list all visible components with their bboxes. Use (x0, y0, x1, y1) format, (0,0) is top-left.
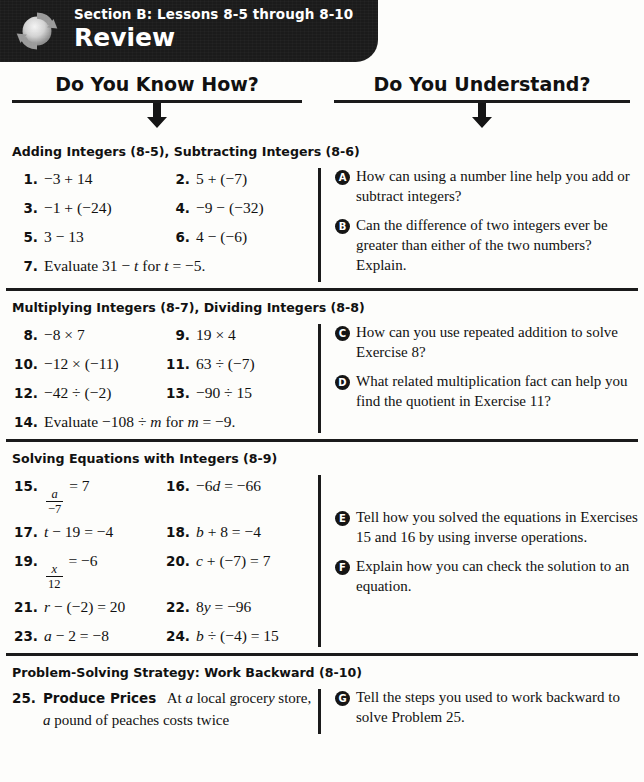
know-how-arrow-wrap (12, 103, 302, 129)
exercise-body-tail: = −6 (68, 552, 97, 569)
column-heading-understand: Do You Understand? (334, 72, 630, 129)
exercise-number: 17. (12, 519, 38, 545)
section-adding-subtracting: Adding Integers (8-5), Subtracting Integ… (0, 144, 644, 288)
fraction-numerator: x (49, 563, 59, 577)
down-arrow-icon (144, 103, 170, 129)
exercise-column: 15. a −7 = 7 16. −6d = −66 17. t − 1 (0, 473, 318, 649)
exercise-number: 12. (12, 380, 38, 406)
understand-arrow-wrap (334, 103, 630, 129)
exercise-number: 11. (164, 351, 190, 377)
exercise-number: 3. (12, 195, 38, 221)
exercise-body: x 12 = −6 (44, 548, 97, 591)
know-how-title: Do You Know How? (12, 72, 302, 96)
question-badge: B (335, 219, 350, 234)
fraction-denominator: −7 (46, 501, 63, 516)
section-divider (6, 439, 638, 442)
exercise-grid: 8. −8 × 7 9. 19 × 4 10. −12 × (−11) 11. … (12, 322, 318, 435)
understand-column: G Tell the steps you used to work backwa… (321, 687, 644, 736)
question-text: Explain how you can check the solution t… (356, 556, 644, 596)
exercise-item: 6. 4 − (−6) (164, 224, 318, 250)
exercise-number: 22. (164, 594, 190, 620)
section-divider (6, 653, 638, 656)
exercise-body: 3 − 13 (44, 224, 84, 250)
problem-number: 25. (12, 687, 36, 709)
exercise-body: 5 + (−7) (196, 166, 247, 192)
exercise-number: 4. (164, 195, 190, 221)
question-badge: E (335, 511, 350, 526)
exercise-body: a −7 = 7 (44, 473, 90, 516)
exercise-item: 22. 8y = −96 (164, 594, 318, 620)
exercise-item: 20. c + (−7) = 7 (164, 548, 318, 591)
exercise-body: −6d = −66 (196, 473, 261, 499)
exercise-body: t − 19 = −4 (44, 519, 113, 545)
down-arrow-icon (469, 103, 495, 129)
exercise-number: 10. (12, 351, 38, 377)
understand-question: G Tell the steps you used to work backwa… (335, 687, 644, 727)
understand-column: C How can you use repeated addition to s… (321, 322, 644, 420)
understand-column: E Tell how you solved the equations in E… (321, 473, 644, 605)
problem-body: Produce Prices At a local grocery store,… (43, 687, 318, 731)
exercise-item: 1. −3 + 14 (12, 166, 164, 192)
exercise-grid: 15. a −7 = 7 16. −6d = −66 17. t − 1 (12, 473, 318, 649)
exercise-number: 15. (12, 473, 38, 499)
exercise-item: 3. −1 + (−24) (12, 195, 164, 221)
exercise-number: 14. (12, 409, 38, 435)
exercise-item: 16. −6d = −66 (164, 473, 318, 516)
section-title: Problem-Solving Strategy: Work Backward … (12, 665, 644, 681)
section-solving-equations: Solving Equations with Integers (8-9) 15… (0, 439, 644, 653)
exercise-item: 14. Evaluate −108 ÷ m for m = −9. (12, 409, 318, 435)
exercise-item: 18. b + 8 = −4 (164, 519, 318, 545)
exercise-item: 15. a −7 = 7 (12, 473, 164, 516)
section-title: Solving Equations with Integers (8-9) (12, 451, 644, 467)
exercise-body: 8y = −96 (196, 594, 251, 620)
exercise-number: 2. (164, 166, 190, 192)
exercise-body: −90 ÷ 15 (196, 380, 252, 406)
exercise-number: 19. (12, 548, 38, 574)
exercise-item: 11. 63 ÷ (−7) (164, 351, 318, 377)
exercise-body: Evaluate 31 − t for t = −5. (44, 253, 205, 279)
exercise-number: 5. (12, 224, 38, 250)
exercise-body: r − (−2) = 20 (44, 594, 125, 620)
understand-question: C How can you use repeated addition to s… (335, 322, 644, 362)
exercise-number: 24. (164, 623, 190, 649)
exercise-number: 7. (12, 253, 38, 279)
exercise-item: 23. a − 2 = −8 (12, 623, 164, 649)
exercise-item: 21. r − (−2) = 20 (12, 594, 164, 620)
exercise-item: 2. 5 + (−7) (164, 166, 318, 192)
exercise-item: 10. −12 × (−11) (12, 351, 164, 377)
exercise-number: 1. (12, 166, 38, 192)
exercise-grid: 1. −3 + 14 2. 5 + (−7) 3. −1 + (−24) 4. … (12, 166, 318, 279)
exercise-number: 9. (164, 322, 190, 348)
exercise-item: 7. Evaluate 31 − t for t = −5. (12, 253, 318, 279)
understand-column: A How can using a number line help you a… (321, 166, 644, 284)
banner-text-block: Section B: Lessons 8-5 through 8-10 Revi… (74, 6, 353, 52)
exercise-number: 20. (164, 548, 190, 574)
fraction-numerator: a (50, 488, 60, 502)
question-text: Can the difference of two integers ever … (356, 215, 644, 275)
exercise-item: 24. b ÷ (−4) = 15 (164, 623, 318, 649)
column-headings: Do You Know How? Do You Understand? (0, 72, 644, 144)
problem-item: 25. Produce Prices At a local grocery st… (12, 687, 318, 731)
section-banner: Section B: Lessons 8-5 through 8-10 Revi… (0, 0, 378, 62)
column-heading-know-how: Do You Know How? (12, 72, 302, 129)
exercise-body: −12 × (−11) (44, 351, 119, 377)
exercise-item: 12. −42 ÷ (−2) (12, 380, 164, 406)
exercise-item: 9. 19 × 4 (164, 322, 318, 348)
question-badge: F (335, 560, 350, 575)
exercise-body: b + 8 = −4 (196, 519, 261, 545)
fraction-denominator: 12 (46, 576, 63, 591)
exercise-number: 23. (12, 623, 38, 649)
question-badge: C (335, 326, 350, 341)
exercise-body: Evaluate −108 ÷ m for m = −9. (44, 409, 235, 435)
exercise-item: 8. −8 × 7 (12, 322, 164, 348)
exercise-body: a − 2 = −8 (44, 623, 109, 649)
exercise-body: −3 + 14 (44, 166, 92, 192)
banner-eyebrow: Section B: Lessons 8-5 through 8-10 (74, 6, 353, 22)
exercise-item: 5. 3 − 13 (12, 224, 164, 250)
exercise-number: 6. (164, 224, 190, 250)
question-text: What related multiplication fact can hel… (356, 371, 644, 411)
exercise-body: −42 ÷ (−2) (44, 380, 111, 406)
fraction: a −7 (46, 488, 63, 516)
exercise-item: 4. −9 − (−32) (164, 195, 318, 221)
exercise-body: 19 × 4 (196, 322, 236, 348)
